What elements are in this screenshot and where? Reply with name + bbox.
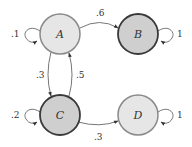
node-a: A [40, 14, 80, 54]
node-c: C [40, 95, 80, 135]
node-a-label: A [55, 28, 64, 41]
edge-b-self-loop [158, 28, 173, 42]
edge-label-a-b: .6 [96, 8, 105, 18]
node-b: B [118, 14, 158, 54]
edge-d-self-loop [158, 109, 173, 123]
edge-label-a-c: .3 [36, 70, 45, 80]
edge-c-to-d [78, 121, 118, 125]
edge-label-c-c: .2 [11, 110, 20, 120]
markov-chain-diagram: .6 .3 .5 .3 .1 1 .2 1 A B [0, 0, 192, 147]
edge-label-a-a: .1 [11, 29, 20, 39]
edge-label-c-d: .3 [94, 132, 103, 142]
node-c-label: C [56, 109, 65, 122]
node-d-label: D [133, 109, 143, 122]
node-d: D [118, 95, 158, 135]
edge-label-b-b: 1 [177, 29, 183, 39]
edge-c-to-a [69, 53, 72, 96]
edge-c-self-loop [25, 109, 40, 123]
edge-a-self-loop [25, 28, 40, 42]
edge-label-c-a: .5 [76, 70, 85, 80]
edge-label-d-d: 1 [177, 110, 183, 120]
node-b-label: B [133, 28, 142, 41]
edge-a-to-c [48, 52, 51, 96]
edge-a-to-b [80, 23, 118, 29]
nodes: A B C D [40, 14, 158, 135]
